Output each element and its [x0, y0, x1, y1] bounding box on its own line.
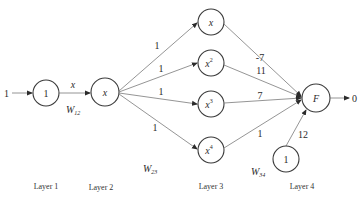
svg-text:F: F	[312, 93, 320, 104]
w34-value-3: 7	[258, 90, 263, 101]
layer1-node-label: 1	[44, 88, 49, 99]
layer-label-3: Layer 3	[199, 182, 224, 191]
layer3-node-x3: x3	[198, 91, 224, 117]
layer-label-1: Layer 1	[34, 182, 59, 191]
edge-l3-l4-4	[224, 100, 301, 148]
output-node-f: F	[302, 84, 330, 112]
svg-text:x: x	[208, 17, 214, 28]
layer1-node: 1	[33, 80, 59, 106]
w34-value-1: -7	[256, 52, 264, 63]
w23-label: W23	[143, 163, 157, 175]
w34-value-4: 1	[258, 128, 263, 139]
input-value: 1	[4, 88, 9, 99]
w23-value-3: 1	[159, 86, 164, 97]
layer-label-4: Layer 4	[290, 182, 315, 191]
edge-l1-l2-label: x	[70, 79, 76, 90]
layer2-node: x	[91, 78, 119, 106]
layer-label-2: Layer 2	[89, 183, 114, 192]
svg-text:1: 1	[284, 154, 289, 165]
edge-l3-l4-3	[224, 98, 301, 103]
neural-network-diagram: 1 1 x W12 x 1 1 1 1 W23 x x2 x3 x4 -7	[0, 0, 363, 200]
layer3-node-x: x	[198, 9, 224, 35]
bias-weight: 12	[298, 129, 308, 140]
w23-value-2: 1	[159, 63, 164, 74]
w34-label: W34	[251, 166, 265, 178]
edge-l2-l3-1	[119, 23, 197, 91]
layer2-node-label: x	[102, 87, 108, 98]
layer3-node-x2: x2	[198, 50, 224, 76]
w34-value-2: 11	[256, 65, 266, 76]
w12-label: W12	[66, 104, 80, 116]
edge-bias-f	[286, 110, 306, 146]
w23-value-1: 1	[155, 40, 160, 51]
layer3-node-x4: x4	[198, 137, 224, 163]
output-value: 0	[352, 93, 357, 104]
bias-node: 1	[273, 146, 299, 172]
w23-value-4: 1	[153, 122, 158, 133]
